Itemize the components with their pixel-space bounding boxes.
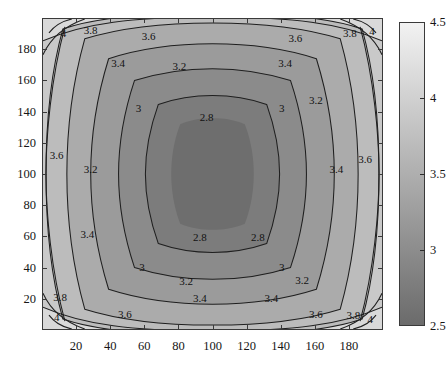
x-tick-mark (144, 18, 145, 23)
y-tick-mark (42, 143, 47, 144)
x-tick-label: 100 (203, 340, 222, 353)
contour-label: 3.4 (192, 293, 208, 304)
y-tick-mark (42, 268, 47, 269)
x-tick-mark (247, 18, 248, 23)
y-tick-mark (378, 143, 383, 144)
y-tick-mark (378, 299, 383, 300)
x-tick-label: 80 (172, 340, 185, 353)
x-tick-label: 120 (237, 340, 256, 353)
x-tick-mark (178, 325, 179, 330)
colorbar-tick-label: 4.5 (430, 16, 446, 29)
contour-label: 4 (367, 313, 375, 324)
x-tick-mark (315, 325, 316, 330)
x-tick-mark (110, 325, 111, 330)
x-tick-label: 140 (271, 340, 290, 353)
contour-label: 3.4 (110, 57, 126, 68)
y-tick-mark (42, 236, 47, 237)
contour-label: 3.6 (49, 149, 65, 160)
contour-label: 3.8 (345, 310, 361, 321)
contour-label: 3.6 (141, 31, 157, 42)
x-tick-mark (349, 18, 350, 23)
contour-label: 3.4 (277, 57, 293, 68)
x-tick-mark (315, 18, 316, 23)
contour-label: 3.4 (264, 293, 280, 304)
contour-label: 3 (135, 102, 143, 113)
contour-label: 3 (138, 262, 146, 273)
y-tick-label: 40 (24, 261, 37, 274)
y-tick-mark (378, 80, 383, 81)
y-tick-label: 140 (17, 105, 36, 118)
x-tick-label: 180 (340, 340, 359, 353)
contour-label: 3.6 (357, 154, 373, 165)
colorbar-tick-mark (420, 98, 425, 99)
contour-label: 3.2 (178, 276, 194, 287)
colorbar-tick-label: 3 (430, 244, 436, 257)
contour-label: 3 (278, 102, 286, 113)
y-tick-label: 60 (24, 230, 37, 243)
contour-label: 3.2 (308, 95, 324, 106)
colorbar-tick-label: 2.5 (430, 320, 446, 333)
x-tick-mark (213, 18, 214, 23)
contour-label: 3.6 (117, 308, 133, 319)
colorbar-tick-label: 3.5 (430, 168, 446, 181)
contour-label: 2.8 (199, 112, 215, 123)
y-tick-mark (378, 112, 383, 113)
y-tick-label: 100 (17, 168, 36, 181)
contour-label: 3.6 (287, 32, 303, 43)
x-tick-mark (247, 325, 248, 330)
contour-label: 4 (368, 26, 376, 37)
contour-label: 3.2 (294, 274, 310, 285)
contour-label: 3.4 (79, 229, 95, 240)
contour-label: 3.8 (52, 291, 68, 302)
contour-label: 3.4 (328, 163, 344, 174)
contour-label: 3 (278, 262, 286, 273)
contour-label: 4 (60, 28, 68, 39)
y-tick-mark (42, 112, 47, 113)
x-tick-mark (144, 325, 145, 330)
y-tick-mark (378, 268, 383, 269)
colorbar-tick-label: 4 (430, 92, 436, 105)
contour-label: 2.8 (250, 232, 266, 243)
y-tick-mark (42, 49, 47, 50)
contour-label: 3.8 (342, 28, 358, 39)
x-tick-mark (76, 325, 77, 330)
contour-label: 3.2 (83, 163, 99, 174)
x-tick-label: 160 (305, 340, 324, 353)
x-tick-label: 60 (138, 340, 151, 353)
y-tick-mark (378, 174, 383, 175)
x-tick-mark (110, 18, 111, 23)
colorbar-tick-mark (420, 250, 425, 251)
y-tick-label: 180 (17, 43, 36, 56)
y-tick-label: 20 (24, 293, 37, 306)
x-tick-mark (349, 325, 350, 330)
y-tick-mark (378, 49, 383, 50)
x-tick-mark (281, 325, 282, 330)
x-tick-mark (281, 18, 282, 23)
y-tick-label: 160 (17, 74, 36, 87)
y-tick-label: 120 (17, 137, 36, 150)
colorbar-tick-mark (420, 174, 425, 175)
y-tick-mark (378, 236, 383, 237)
x-tick-label: 20 (70, 340, 83, 353)
y-tick-mark (42, 299, 47, 300)
y-tick-mark (42, 80, 47, 81)
x-tick-mark (178, 18, 179, 23)
x-tick-mark (213, 325, 214, 330)
y-tick-mark (42, 174, 47, 175)
x-tick-mark (76, 18, 77, 23)
contour-label: 3.2 (172, 60, 188, 71)
contour-label: 3.8 (83, 24, 99, 35)
contour-figure: 43.83.63.63.843.43.23.432.833.23.63.23.4… (0, 0, 448, 366)
contour-label: 2.8 (192, 232, 208, 243)
x-tick-label: 40 (104, 340, 117, 353)
y-tick-mark (378, 205, 383, 206)
contour-label: 4 (53, 311, 61, 322)
y-tick-label: 80 (24, 199, 37, 212)
plot-area: 43.83.63.63.843.43.23.432.833.23.63.23.4… (42, 18, 383, 330)
contour-label: 3.6 (308, 308, 324, 319)
y-tick-mark (42, 205, 47, 206)
